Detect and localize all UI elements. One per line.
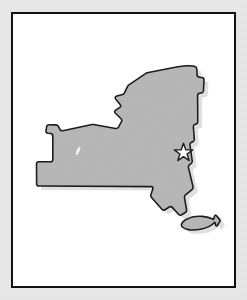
figure-root: Gray silhouette map of New York State wi… [0,0,247,300]
map-frame-border [11,12,236,288]
